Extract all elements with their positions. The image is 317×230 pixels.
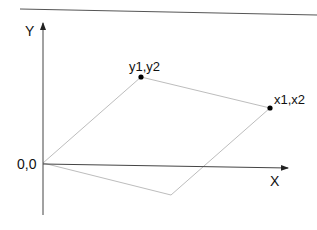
point-label-x1-x2: x1,x2 <box>274 92 305 107</box>
x-axis <box>43 164 288 168</box>
x-axis-label: X <box>270 173 280 189</box>
y-axis-label: Y <box>25 23 35 39</box>
origin-label: 0,0 <box>17 156 37 172</box>
edge-y-to-x <box>141 77 270 108</box>
edge-x-to-sum <box>171 108 270 195</box>
edge-sum-to-origin <box>43 163 171 195</box>
edge-origin-to-y <box>43 77 141 163</box>
parallelogram-edges <box>43 77 270 195</box>
top-border-line <box>20 9 317 15</box>
point-y1-y2 <box>138 74 143 79</box>
point-x1-x2 <box>267 105 272 110</box>
parallelogram-diagram: Y X 0,0 y1,y2 x1,x2 <box>0 0 317 230</box>
point-label-y1-y2: y1,y2 <box>129 59 160 74</box>
